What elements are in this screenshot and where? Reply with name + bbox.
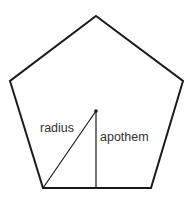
radius-label: radius bbox=[40, 121, 74, 135]
pentagon-diagram: radius apothem bbox=[0, 0, 192, 198]
center-point bbox=[94, 109, 98, 113]
apothem-label: apothem bbox=[100, 130, 149, 144]
